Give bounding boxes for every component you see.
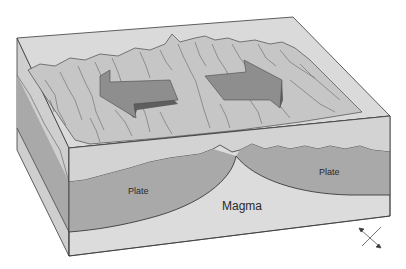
plate-right-label: Plate — [319, 167, 340, 177]
block-diagram: Plate Plate Magma — [0, 0, 406, 269]
magma-label: Magma — [222, 199, 262, 213]
orientation-arrow-icon — [359, 227, 381, 248]
plate-left-label: Plate — [128, 186, 149, 196]
